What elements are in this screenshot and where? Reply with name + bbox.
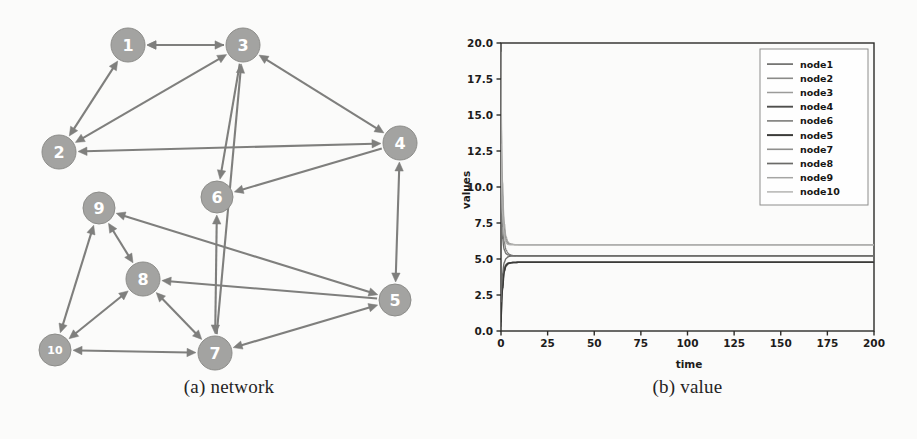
edge-line (75, 295, 123, 334)
panel-b-caption: (b) value (458, 376, 917, 398)
edge-arrowhead (368, 288, 378, 296)
value-panel: 02550751001251501752000.02.55.07.510.012… (458, 0, 917, 439)
network-graph: 12345678910 (0, 0, 458, 380)
value-line-chart: 02550751001251501752000.02.55.07.510.012… (458, 0, 917, 380)
node-label: 2 (53, 143, 64, 162)
edge-6-7 (211, 215, 221, 334)
legend-label: node3 (800, 87, 833, 98)
edge-line (215, 222, 216, 327)
series-line-node4 (501, 262, 874, 326)
y-tick-label: 2.5 (474, 289, 493, 301)
node-label: 5 (389, 291, 400, 310)
legend-label: node4 (800, 101, 834, 112)
edge-arrowhead (59, 323, 67, 333)
x-tick-label: 200 (863, 337, 885, 349)
edge-line (62, 232, 91, 326)
edge-3-1 (147, 41, 224, 49)
graph-node-9[interactable]: 9 (83, 192, 115, 224)
node-label: 6 (211, 188, 222, 207)
x-tick-label: 0 (497, 337, 504, 349)
legend-label: node2 (800, 73, 833, 84)
edge-arrowhead (213, 215, 221, 224)
y-tick-label: 17.5 (467, 73, 493, 85)
edge-arrowhead (147, 41, 156, 49)
legend-label: node5 (800, 130, 833, 141)
edge-5-8 (162, 277, 377, 298)
edge-7-8 (156, 293, 202, 340)
network-panel: 12345678910 (a) network (0, 0, 458, 439)
legend-label: node10 (800, 186, 840, 197)
node-label: 8 (137, 270, 148, 289)
edge-8-9 (109, 223, 134, 262)
edge-4-5 (392, 162, 404, 282)
legend-label: node6 (800, 115, 834, 126)
edge-line (73, 67, 114, 130)
x-tick-label: 75 (634, 337, 649, 349)
legend-label: node1 (800, 59, 833, 70)
y-tick-label: 7.5 (474, 217, 493, 229)
graph-node-2[interactable]: 2 (42, 135, 76, 169)
graph-node-8[interactable]: 8 (126, 262, 160, 296)
edge-arrowhead (233, 341, 243, 349)
edge-3-4 (259, 55, 384, 133)
edge-arrowhead (368, 304, 378, 312)
legend-label: node8 (800, 158, 834, 169)
y-tick-label: 0.0 (474, 325, 493, 337)
legend-label: node9 (800, 172, 833, 183)
y-tick-label: 5.0 (474, 253, 493, 265)
edge-line (396, 169, 399, 275)
node-label: 4 (394, 134, 405, 153)
series-line-node1 (501, 207, 874, 256)
edge-arrowhead (116, 212, 126, 220)
node-label: 7 (209, 344, 220, 363)
legend-label: node7 (800, 144, 833, 155)
chart-legend[interactable]: node1node2node3node4node6node5node7node8… (760, 49, 868, 205)
edge-arrowhead (73, 346, 82, 354)
edge-2-4 (78, 140, 381, 156)
edge-line (240, 307, 371, 346)
edge-line (161, 298, 197, 335)
edge-line (85, 144, 374, 152)
edge-line (80, 351, 189, 353)
edge-2-3 (75, 55, 226, 143)
figure-root: 12345678910 (a) network 0255075100125150… (0, 0, 917, 439)
edge-arrowhead (372, 140, 381, 148)
node-label: 10 (47, 344, 63, 357)
graph-node-10[interactable]: 10 (39, 334, 71, 366)
edge-8-10 (69, 291, 128, 339)
graph-node-5[interactable]: 5 (379, 284, 411, 316)
edge-arrowhead (392, 273, 400, 282)
edge-arrowhead (87, 225, 95, 235)
edge-arrowhead (187, 348, 196, 356)
edge-arrowhead (78, 147, 87, 155)
x-tick-label: 125 (723, 337, 745, 349)
y-tick-label: 12.5 (467, 145, 493, 157)
edge-line (82, 58, 221, 139)
edge-arrowhead (217, 170, 225, 180)
node-layer: 12345678910 (39, 28, 417, 370)
edge-line (265, 59, 378, 129)
y-tick-label: 20.0 (467, 37, 493, 49)
graph-node-3[interactable]: 3 (226, 28, 260, 62)
graph-node-4[interactable]: 4 (383, 126, 417, 160)
graph-node-1[interactable]: 1 (111, 28, 145, 62)
graph-node-7[interactable]: 7 (198, 336, 232, 370)
edge-arrowhead (236, 64, 244, 73)
node-label: 9 (93, 199, 104, 218)
edge-9-10 (59, 225, 95, 333)
panel-a-caption: (a) network (0, 376, 458, 398)
x-tick-label: 100 (677, 337, 699, 349)
series-line-node2 (501, 262, 874, 315)
edge-arrowhead (162, 277, 171, 285)
x-axis-title: time (676, 358, 703, 370)
edge-line (112, 229, 129, 257)
node-label: 1 (122, 36, 133, 55)
x-tick-label: 50 (587, 337, 602, 349)
x-tick-label: 25 (540, 337, 555, 349)
y-axis-title: values (460, 171, 472, 209)
edge-1-2 (69, 61, 117, 136)
edge-7-10 (73, 346, 196, 356)
series-line-node5 (501, 262, 874, 322)
edge-arrowhead (234, 185, 244, 193)
graph-node-6[interactable]: 6 (201, 181, 233, 213)
